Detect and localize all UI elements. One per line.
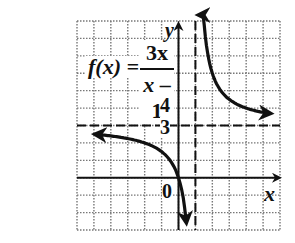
function-name-label: f(x) = — [86, 56, 141, 78]
y-axis-label: y — [165, 20, 174, 40]
tick-label-4: 4 — [160, 95, 170, 115]
numerator-text: 3x — [146, 40, 168, 65]
curves — [97, 15, 268, 221]
origin-label: 0 — [162, 181, 172, 201]
x-axis-label: x — [264, 183, 275, 205]
denominator-var: x — [143, 72, 154, 97]
tick-label-3: 3 — [160, 117, 170, 137]
numerator: 3x — [140, 40, 174, 70]
